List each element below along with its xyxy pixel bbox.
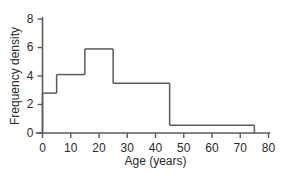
x-axis-tick-label: 0 bbox=[39, 141, 46, 155]
histogram-svg: 02468 01020304050607080 Age (years) Freq… bbox=[0, 0, 284, 183]
y-axis-tick-label: 4 bbox=[27, 69, 34, 83]
y-axis-tick-label: 6 bbox=[27, 40, 34, 54]
x-axis-tick-labels: 01020304050607080 bbox=[39, 141, 275, 155]
y-axis-title: Frequency density bbox=[8, 27, 22, 125]
x-axis-tick-label: 60 bbox=[205, 141, 219, 155]
x-axis-tick-label: 20 bbox=[92, 141, 106, 155]
x-axis-tick-label: 10 bbox=[64, 141, 78, 155]
x-axis-tick-label: 80 bbox=[262, 141, 276, 155]
histogram-bar-group bbox=[43, 49, 255, 133]
x-axis-tick-label: 50 bbox=[177, 141, 191, 155]
histogram-chart: 02468 01020304050607080 Age (years) Freq… bbox=[0, 0, 284, 183]
y-axis-tick-label: 0 bbox=[27, 126, 34, 140]
x-axis-tick-label: 70 bbox=[234, 141, 248, 155]
x-axis-tick-label: 40 bbox=[149, 141, 163, 155]
y-axis-tick-labels: 02468 bbox=[27, 12, 34, 140]
x-axis-tick-label: 30 bbox=[121, 141, 135, 155]
y-axis-tick-label: 2 bbox=[27, 97, 34, 111]
x-axis-title: Age (years) bbox=[124, 154, 186, 168]
y-axis-tick-label: 8 bbox=[27, 12, 34, 26]
